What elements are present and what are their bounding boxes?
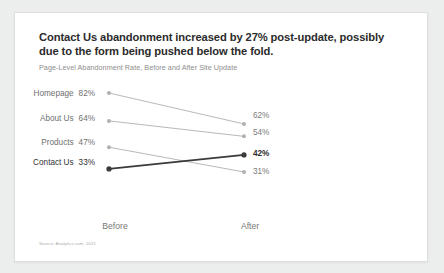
series-name-products: Products	[41, 138, 73, 147]
series-label-contactus: Contact Us33%	[15, 158, 95, 167]
slope-line-about-us	[109, 121, 244, 136]
series-after-contactus: 42%	[253, 149, 269, 158]
axis-label-after: After	[241, 221, 259, 231]
series-label-aboutus: About Us64%	[15, 114, 95, 123]
data-point-about-us-end	[242, 134, 246, 138]
axis-label-before: Before	[102, 221, 127, 231]
series-name-homepage: Homepage	[34, 89, 74, 98]
series-after-products: 31%	[253, 167, 269, 176]
data-point-homepage-end	[242, 122, 246, 126]
data-point-products-start	[107, 145, 111, 149]
series-label-products: Products47%	[15, 138, 95, 147]
series-label-homepage: Homepage82%	[15, 89, 95, 98]
series-after-aboutus: 54%	[253, 128, 269, 137]
series-before-products: 47%	[79, 138, 95, 147]
slope-line-contact-us	[109, 155, 244, 169]
slope-line-products	[109, 147, 244, 172]
series-name-contactus: Contact Us	[33, 158, 74, 167]
data-point-contact-us-start	[106, 166, 111, 171]
series-before-aboutus: 64%	[79, 114, 95, 123]
series-before-homepage: 82%	[79, 89, 95, 98]
data-point-products-end	[242, 170, 246, 174]
slope-line-homepage	[109, 93, 244, 124]
source-note: Source: Analytics.com, 2021.	[39, 241, 97, 246]
series-before-contactus: 33%	[79, 158, 95, 167]
data-point-contact-us-end	[241, 152, 246, 157]
data-point-about-us-start	[107, 119, 111, 123]
series-after-homepage: 62%	[253, 111, 269, 120]
series-name-aboutus: About Us	[40, 114, 74, 123]
chart-card: Contact Us abandonment increased by 27% …	[14, 12, 428, 262]
data-point-homepage-start	[107, 91, 111, 95]
